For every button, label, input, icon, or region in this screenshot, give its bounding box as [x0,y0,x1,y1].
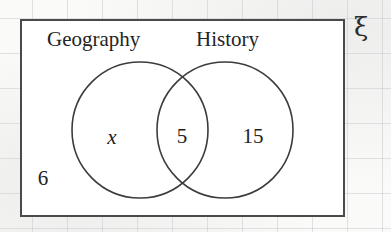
region-value-outside: 6 [31,168,55,189]
region-value-geography-only: x [99,127,125,148]
venn-diagram: ξ Geography History x 5 15 6 [0,0,391,232]
venn-circles [0,0,391,232]
region-value-history-only: 15 [237,126,269,147]
region-value-intersection: 5 [169,126,195,147]
